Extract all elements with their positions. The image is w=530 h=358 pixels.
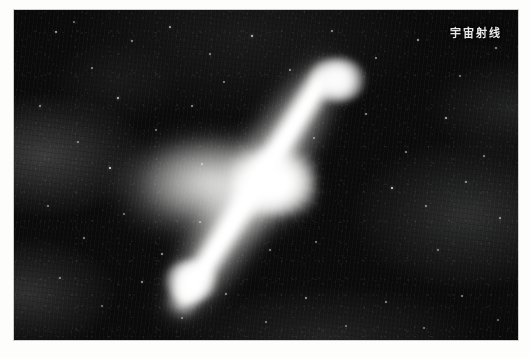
- photo-caption: 宇宙射线: [450, 24, 502, 40]
- page-background: 宇宙射线: [0, 0, 530, 358]
- astronomy-photograph: 宇宙射线: [14, 10, 518, 340]
- vignette-overlay: [14, 10, 518, 340]
